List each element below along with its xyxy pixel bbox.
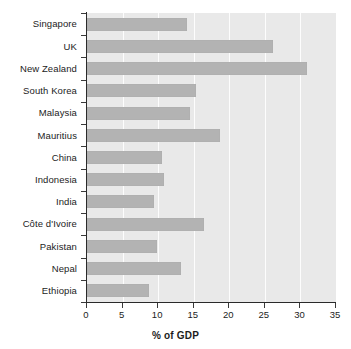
x-tick-35 xyxy=(335,303,336,308)
bar-slot xyxy=(87,213,336,235)
x-tick-30 xyxy=(299,303,300,308)
bar[interactable] xyxy=(87,107,190,120)
y-tick xyxy=(81,280,86,281)
x-axis-title: % of GDP xyxy=(0,330,351,341)
x-tick-label-5: 5 xyxy=(119,310,124,320)
x-tick-label-25: 25 xyxy=(259,310,270,320)
x-tick-25 xyxy=(264,303,265,308)
bar-slot xyxy=(87,258,336,280)
x-tick-20 xyxy=(228,303,229,308)
y-tick xyxy=(81,146,86,147)
y-tick xyxy=(81,213,86,214)
y-tick xyxy=(81,102,86,103)
plot-area xyxy=(87,13,336,302)
bar[interactable] xyxy=(87,62,307,75)
y-axis-line xyxy=(86,12,87,303)
y-axis-label-indonesia: Indonesia xyxy=(0,169,82,191)
bar[interactable] xyxy=(87,240,157,253)
x-tick-label-15: 15 xyxy=(187,310,198,320)
y-axis-label-mauritius: Mauritius xyxy=(0,124,82,146)
x-tick-label-20: 20 xyxy=(223,310,234,320)
y-tick xyxy=(81,258,86,259)
x-tick-15 xyxy=(193,303,194,308)
bar[interactable] xyxy=(87,129,220,142)
y-tick xyxy=(81,80,86,81)
x-tick-label-35: 35 xyxy=(330,310,341,320)
bar[interactable] xyxy=(87,40,273,53)
bar[interactable] xyxy=(87,218,204,231)
y-tick xyxy=(81,169,86,170)
bar-slot xyxy=(87,280,336,302)
y-axis-label-pakistan: Pakistan xyxy=(0,235,82,257)
x-tick-5 xyxy=(122,303,123,308)
y-tick xyxy=(81,57,86,58)
bar-slot xyxy=(87,191,336,213)
y-axis-label-south-korea: South Korea xyxy=(0,80,82,102)
bar-slot xyxy=(87,146,336,168)
y-tick xyxy=(81,235,86,236)
y-axis-label-uk: UK xyxy=(0,35,82,57)
y-tick xyxy=(81,191,86,192)
bar-slot xyxy=(87,13,336,35)
bar[interactable] xyxy=(87,262,181,275)
x-tick-label-0: 0 xyxy=(83,310,88,320)
bar[interactable] xyxy=(87,195,154,208)
bar-slot xyxy=(87,35,336,57)
bar-series xyxy=(87,13,336,302)
x-tick-10 xyxy=(157,303,158,308)
x-tick-label-10: 10 xyxy=(152,310,163,320)
bar-chart: Singapore UK New Zealand South Korea Mal… xyxy=(0,0,351,349)
y-tick xyxy=(81,124,86,125)
x-tick-0 xyxy=(86,303,87,308)
y-tick xyxy=(81,13,86,14)
y-axis-label-nepal: Nepal xyxy=(0,258,82,280)
bar[interactable] xyxy=(87,173,164,186)
y-axis-label-new-zealand: New Zealand xyxy=(0,57,82,79)
bar[interactable] xyxy=(87,18,187,31)
bar-slot xyxy=(87,124,336,146)
y-axis-label-cote-divoire: Côte d'Ivoire xyxy=(0,213,82,235)
y-axis-label-singapore: Singapore xyxy=(0,13,82,35)
bar-slot xyxy=(87,169,336,191)
bar[interactable] xyxy=(87,151,162,164)
y-axis-label-malaysia: Malaysia xyxy=(0,102,82,124)
bar-slot xyxy=(87,57,336,79)
y-axis-label-ethiopia: Ethiopia xyxy=(0,280,82,302)
bar-slot xyxy=(87,80,336,102)
x-tick-label-30: 30 xyxy=(294,310,305,320)
bar[interactable] xyxy=(87,84,196,97)
y-tick xyxy=(81,35,86,36)
bar-slot xyxy=(87,235,336,257)
y-axis-label-china: China xyxy=(0,146,82,168)
bar-slot xyxy=(87,102,336,124)
y-axis-category-labels: Singapore UK New Zealand South Korea Mal… xyxy=(0,13,82,302)
bar[interactable] xyxy=(87,284,149,297)
y-axis-label-india: India xyxy=(0,191,82,213)
